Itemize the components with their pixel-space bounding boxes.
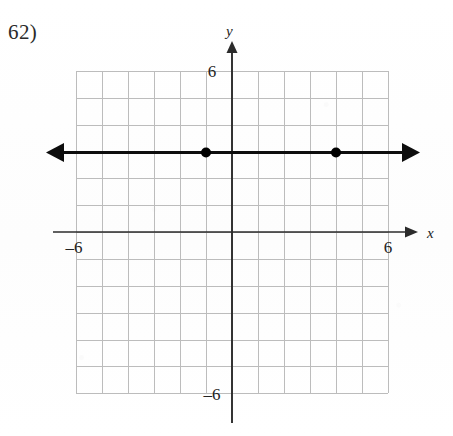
plot-point [331, 148, 341, 158]
plot-line-arrow-right-icon [402, 143, 420, 162]
y-axis-label: y [224, 23, 233, 39]
y-min-tick-label: –6 [203, 385, 221, 404]
x-min-tick-label: –6 [65, 238, 83, 257]
y-axis-arrow-up-icon [227, 41, 238, 53]
coordinate-plane-figure: x y 6 –6 6 –6 [0, 0, 453, 436]
worksheet-page: 62) [0, 0, 453, 436]
plot-line-arrow-left-icon [46, 143, 64, 162]
y-max-tick-label: 6 [208, 62, 217, 81]
x-axis-label: x [426, 225, 434, 241]
x-axis-arrow-right-icon [405, 227, 418, 238]
x-axis [53, 227, 418, 238]
x-max-tick-label: 6 [384, 238, 393, 257]
plot-point [201, 148, 211, 158]
